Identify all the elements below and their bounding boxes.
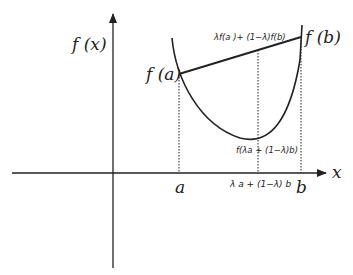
y-axis-label: f (x) xyxy=(70,34,107,54)
a-label: a xyxy=(175,177,185,197)
x-axis-label: x xyxy=(332,162,342,182)
chord-value-label: λf(a )+ (1−λ)f(b) xyxy=(213,32,286,42)
fa-label: f (a) xyxy=(144,64,181,84)
chord-line xyxy=(179,37,301,74)
convexity-diagram: f (x) x f (a) f (b) a b λ a + (1−λ) b λf… xyxy=(0,0,353,275)
mid-point-label: λ a + (1−λ) b xyxy=(229,179,291,189)
b-label: b xyxy=(296,177,307,197)
fb-label: f (b) xyxy=(303,27,341,47)
curve-value-label: f(λa + (1−λ)b) xyxy=(236,145,298,155)
